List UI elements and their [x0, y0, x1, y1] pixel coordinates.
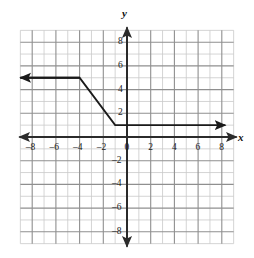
y-tick-label: 6 [118, 61, 123, 71]
x-tick-label: 2 [148, 143, 153, 153]
x-tick-label: 4 [172, 143, 177, 153]
graph-figure: –8–6–4–202468 8642–2–4–6–8 x y [0, 0, 254, 258]
x-tick-label: –6 [49, 143, 59, 153]
y-tick-label: –6 [112, 203, 122, 213]
coordinate-plane-svg [0, 0, 254, 258]
y-tick-label: 8 [118, 37, 123, 47]
x-axis-label: x [238, 132, 244, 143]
y-tick-label: 4 [118, 85, 123, 95]
y-axis-label: y [122, 8, 127, 19]
x-tick-label: 0 [125, 143, 130, 153]
y-tick-label: –2 [112, 156, 122, 166]
axes-lines [19, 27, 236, 246]
x-tick-label: –2 [97, 143, 107, 153]
y-tick-label: 2 [118, 108, 123, 118]
y-tick-label: –8 [112, 227, 122, 237]
y-tick-label: –4 [112, 179, 122, 189]
x-tick-label: 6 [196, 143, 201, 153]
x-tick-label: –8 [26, 143, 36, 153]
x-tick-label: 8 [219, 143, 224, 153]
x-tick-label: –4 [73, 143, 83, 153]
